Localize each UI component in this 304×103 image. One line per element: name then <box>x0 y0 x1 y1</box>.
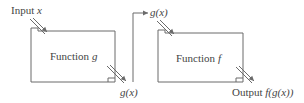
input-label: Input x <box>11 4 42 16</box>
function-f-label: Function f <box>176 52 223 64</box>
output-label: Output f(g(x)) <box>232 86 294 99</box>
g-output-label: g(x) <box>120 86 138 99</box>
connector-arrow-icon <box>133 13 148 82</box>
function-g-label: Function g <box>50 50 98 62</box>
function-composition-diagram: Input x Function g g(x) g(x) Function f … <box>0 0 304 103</box>
f-output-arrow-icon <box>236 67 252 83</box>
input-arrow-icon <box>30 19 45 34</box>
g-input-label: g(x) <box>150 6 168 19</box>
f-input-arrow-icon <box>157 21 172 36</box>
